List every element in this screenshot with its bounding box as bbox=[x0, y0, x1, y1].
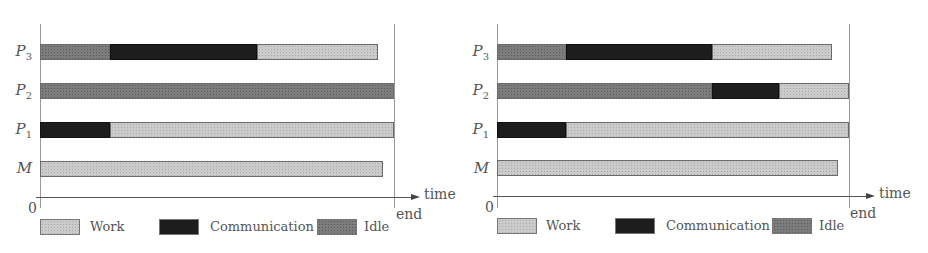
bar-p2 bbox=[497, 83, 849, 99]
time-label: time bbox=[879, 185, 911, 201]
end-line bbox=[849, 24, 850, 208]
row-label-p3: P3 bbox=[467, 42, 489, 62]
legend-swatch-idle bbox=[772, 218, 812, 234]
row-label-main: P bbox=[473, 42, 483, 60]
bar-m bbox=[497, 160, 849, 176]
segment-work bbox=[497, 160, 838, 176]
bar-p3 bbox=[497, 44, 849, 60]
row-label-main: M bbox=[474, 159, 489, 177]
legend-swatch-work bbox=[497, 218, 537, 234]
zero-label: 0 bbox=[485, 199, 494, 215]
segment-communication bbox=[497, 122, 566, 138]
segment-communication bbox=[566, 44, 712, 60]
row-label-main: P bbox=[473, 120, 483, 138]
time-axis bbox=[493, 196, 867, 197]
row-label-sub: 1 bbox=[483, 129, 489, 140]
row-label-m: M bbox=[467, 159, 489, 177]
chart-right: time 0 end P3 P2 P1 M Work Communication… bbox=[0, 0, 928, 253]
legend-label-communication: Communication bbox=[666, 218, 770, 233]
legend-swatch-communication bbox=[615, 218, 655, 234]
legend-label-idle: Idle bbox=[819, 218, 844, 233]
row-label-p2: P2 bbox=[467, 81, 489, 101]
segment-communication bbox=[712, 83, 779, 99]
bar-p1 bbox=[497, 122, 849, 138]
end-label: end bbox=[850, 205, 876, 221]
segment-work bbox=[779, 83, 849, 99]
segment-idle bbox=[497, 83, 712, 99]
row-label-main: P bbox=[473, 81, 483, 99]
segment-work bbox=[712, 44, 832, 60]
row-label-p1: P1 bbox=[467, 120, 489, 140]
segment-idle bbox=[497, 44, 566, 60]
row-label-sub: 2 bbox=[483, 90, 489, 101]
row-label-sub: 3 bbox=[483, 51, 489, 62]
legend-label-work: Work bbox=[546, 218, 580, 233]
segment-work bbox=[566, 122, 849, 138]
time-arrow-icon bbox=[866, 193, 875, 199]
